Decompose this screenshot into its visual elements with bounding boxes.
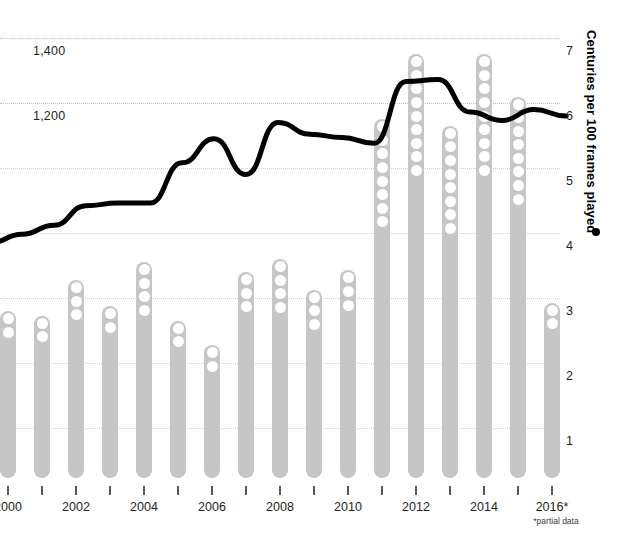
bar-dot-icon <box>445 209 456 220</box>
bar-dot-icon <box>105 322 116 333</box>
bar-dot-icon <box>479 83 490 94</box>
bar-dot-icon <box>309 292 320 303</box>
x-axis-tick <box>415 486 417 495</box>
bar-dot-icon <box>105 308 116 319</box>
bar-series <box>0 0 560 543</box>
bar-dot-icon <box>377 203 388 214</box>
bar-dot-stack <box>238 272 254 315</box>
bar-dot-icon <box>275 302 286 313</box>
bar-dot-stack <box>340 270 356 313</box>
right-axis-tick-label: 5 <box>566 174 578 188</box>
bar-dot-icon <box>479 70 490 81</box>
x-axis-tick <box>75 486 77 495</box>
bar-dot-icon <box>445 155 456 166</box>
bar-dot-icon <box>513 126 524 137</box>
bar-dot-icon <box>207 347 218 358</box>
bar-column <box>476 54 492 478</box>
bar-dot-icon <box>479 138 490 149</box>
x-axis-tick <box>449 486 451 495</box>
bar-column <box>374 119 390 478</box>
bar-dot-icon <box>513 180 524 191</box>
bar-column <box>272 259 288 478</box>
bar-column <box>136 262 152 478</box>
bar-dot-icon <box>309 319 320 330</box>
x-axis-tick <box>551 486 553 495</box>
x-axis-tick <box>143 486 145 495</box>
bar-dot-stack <box>68 280 84 323</box>
right-axis-tick-label: 1 <box>566 434 578 448</box>
bar-dot-icon <box>445 182 456 193</box>
x-axis-tick-label: 2008 <box>266 500 294 514</box>
left-axis-tick-label: 1,400 <box>33 44 65 58</box>
bar-dot-icon <box>377 135 388 146</box>
bar-dot-icon <box>37 331 48 342</box>
x-axis-tick-label: 2014 <box>470 500 498 514</box>
bar-column <box>170 321 186 478</box>
bar-dot-stack <box>204 345 220 374</box>
bar-dot-icon <box>37 318 48 329</box>
bar-dot-icon <box>3 313 14 324</box>
bar-column <box>544 303 560 478</box>
x-axis-tick <box>211 486 213 495</box>
bar-dot-icon <box>547 305 558 316</box>
bar-dot-icon <box>207 361 218 372</box>
bar-dot-icon <box>411 138 422 149</box>
bar-dot-stack <box>136 262 152 318</box>
bar-dot-icon <box>343 300 354 311</box>
x-axis-tick <box>347 486 349 495</box>
bar-dot-icon <box>445 223 456 234</box>
bar-dot-icon <box>479 165 490 176</box>
bar-dot-icon <box>71 309 82 320</box>
bar-dot-icon <box>309 305 320 316</box>
bar-dot-icon <box>411 70 422 81</box>
bar-dot-stack <box>306 290 322 333</box>
bar-dot-icon <box>411 83 422 94</box>
bar-column <box>408 54 424 478</box>
bar-dot-icon <box>445 128 456 139</box>
bar-column <box>0 311 16 478</box>
bar-column <box>68 280 84 478</box>
bar-dot-icon <box>445 196 456 207</box>
bar-dot-icon <box>275 288 286 299</box>
x-axis-tick <box>245 486 247 495</box>
bar-dot-icon <box>513 153 524 164</box>
bar-dot-icon <box>445 169 456 180</box>
bar-dot-icon <box>479 124 490 135</box>
bar-dot-stack <box>102 306 118 335</box>
right-axis-tick-label: 4 <box>566 239 578 253</box>
bar-column <box>34 316 50 478</box>
bar-dot-icon <box>547 318 558 329</box>
bar-dot-icon <box>275 275 286 286</box>
bar-dot-icon <box>173 336 184 347</box>
bar-dot-icon <box>241 274 252 285</box>
bar-dot-icon <box>377 148 388 159</box>
bar-dot-icon <box>71 296 82 307</box>
x-axis-tick <box>41 486 43 495</box>
bar-dot-icon <box>513 166 524 177</box>
bar-column <box>238 272 254 478</box>
bar-dot-icon <box>139 278 150 289</box>
bar-dot-stack <box>544 303 560 332</box>
bar-dot-stack <box>442 126 458 237</box>
bar-dot-icon <box>513 112 524 123</box>
bar-dot-icon <box>241 288 252 299</box>
bar-dot-icon <box>139 291 150 302</box>
right-axis-title: Centuries per 100 frames played <box>584 30 599 233</box>
footnote: *partial data <box>533 516 578 526</box>
bar-dot-icon <box>445 141 456 152</box>
left-axis-tick-label: 1,200 <box>33 109 65 123</box>
bar-dot-stack <box>476 54 492 178</box>
bar-dot-icon <box>479 56 490 67</box>
bar-dot-icon <box>411 165 422 176</box>
bar-dot-icon <box>513 139 524 150</box>
bar-dot-icon <box>377 121 388 132</box>
x-axis-tick-label: 2002 <box>62 500 90 514</box>
bar-dot-icon <box>343 272 354 283</box>
bar-dot-stack <box>408 54 424 178</box>
bar-dot-icon <box>275 261 286 272</box>
bar-column <box>306 290 322 478</box>
x-axis-tick <box>381 486 383 495</box>
bar-dot-icon <box>377 216 388 227</box>
bar-dot-icon <box>139 305 150 316</box>
x-axis-tick-label: 2012 <box>402 500 430 514</box>
